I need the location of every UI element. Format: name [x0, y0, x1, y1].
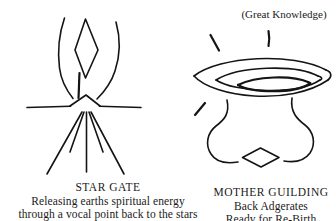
star-gate-glyph: [8, 10, 176, 182]
star-gate-caption-line-2: through a vocal point back to the stars: [0, 208, 216, 221]
star-gate-apex: [70, 95, 100, 106]
upper-center-tick-icon: [269, 31, 270, 46]
star-gate-left-arm: [59, 18, 73, 99]
star-gate-ground-line-left: [27, 106, 71, 107]
mother-guilding-caption: MOTHER GUILDING Back Adgerates Ready for…: [206, 186, 336, 221]
mother-guilding-caption-line-1: Back Adgerates: [206, 200, 336, 214]
star-gate-ray-outer-left: [47, 112, 82, 174]
lens-core-upper: [238, 77, 308, 85]
mother-guilding-svg: [180, 22, 336, 186]
star-gate-stem: [79, 73, 80, 98]
star-gate-svg: [8, 10, 176, 182]
star-gate-diamond: [75, 19, 98, 78]
star-gate-caption-title: STAR GATE: [0, 181, 216, 195]
star-gate-right-arm: [97, 22, 119, 99]
great-knowledge-label: (Great Knowledge): [232, 8, 336, 20]
star-gate-ray-outer-right: [91, 112, 124, 174]
bottom-diamond: [243, 148, 280, 167]
lens-outer-upper: [194, 59, 326, 76]
lens-inner-right-close: [318, 76, 322, 80]
mother-guilding-caption-title: MOTHER GUILDING: [206, 186, 336, 200]
upper-left-tick-icon: [211, 35, 220, 51]
lens-core-lower: [238, 84, 309, 91]
lower-left-tick-icon: [195, 103, 205, 115]
lens-core-right-close: [308, 82, 310, 84]
star-gate-caption: STAR GATE Releasing earths spiritual ene…: [0, 181, 216, 221]
star-gate-ground-line-right: [100, 106, 142, 107]
drawing-canvas: (Great Knowledge) STAR GATE Releasing ea…: [0, 0, 336, 221]
star-gate-ray-inner-left: [70, 112, 84, 152]
mother-guilding-caption-line-2: Ready for Re-Birth: [206, 213, 336, 221]
vessel-left-curve: [208, 100, 238, 163]
lens-outer-right-close: [326, 70, 331, 80]
vessel-right-curve: [284, 98, 313, 162]
mother-guilding-glyph: [180, 22, 336, 186]
star-gate-caption-line-1: Releasing earths spiritual energy: [0, 195, 216, 209]
